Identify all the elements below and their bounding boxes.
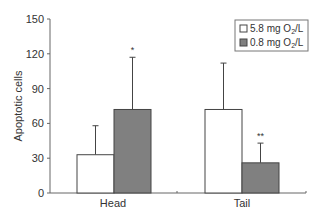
legend-label: 0.8 mg O2/L (250, 37, 304, 49)
x-tick-label: Head (100, 197, 126, 209)
bar-tail-0-8 (242, 163, 279, 193)
y-tick-label: 120 (26, 48, 44, 60)
legend-label: 5.8 mg O2/L (250, 23, 304, 35)
y-axis-label: Apoptotic cells (12, 70, 24, 141)
y-tick-label: 60 (32, 117, 44, 129)
significance-marker: * (131, 45, 135, 55)
y-tick-label: 150 (26, 13, 44, 25)
bar-head-5-8 (77, 155, 114, 193)
y-tick-label: 30 (32, 152, 44, 164)
bar-tail-5-8 (205, 109, 242, 193)
legend-swatch (240, 25, 247, 32)
y-tick-label: 90 (32, 83, 44, 95)
y-tick-label: 0 (38, 187, 44, 199)
bar-chart: 0306090120150Apoptotic cells*Head**Tail5… (0, 0, 321, 213)
significance-marker: ** (257, 131, 265, 141)
bar-head-0-8 (114, 109, 151, 193)
legend-swatch (240, 39, 247, 46)
x-tick-label: Tail (234, 197, 251, 209)
chart-canvas: 0306090120150Apoptotic cells*Head**Tail5… (0, 0, 321, 213)
